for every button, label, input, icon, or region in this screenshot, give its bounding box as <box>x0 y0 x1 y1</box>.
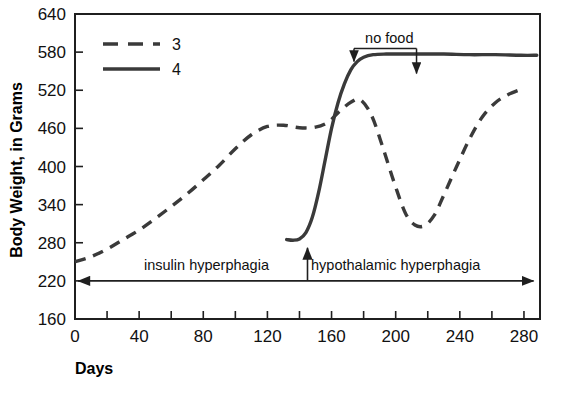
x-ticklabel-280: 280 <box>510 327 538 346</box>
y-ticklabel-460: 460 <box>38 119 66 138</box>
y-ticklabel-340: 340 <box>38 196 66 215</box>
x-ticklabel-0: 0 <box>70 327 79 346</box>
y-axis-title: Body Weight, in Grams <box>8 82 25 258</box>
y-ticklabel-640: 640 <box>38 5 66 24</box>
no-food-label: no food <box>365 30 413 46</box>
body-weight-line-chart: 160220280340400460520580640 040801201602… <box>0 0 565 398</box>
x-ticklabel-160: 160 <box>317 327 345 346</box>
legend-label-3: 3 <box>172 36 181 53</box>
x-ticklabel-40: 40 <box>130 327 149 346</box>
insulin-hyperphagia-label: insulin hyperphagia <box>144 257 270 273</box>
x-ticklabel-120: 120 <box>253 327 281 346</box>
y-ticklabel-520: 520 <box>38 81 66 100</box>
y-ticklabel-160: 160 <box>38 310 66 329</box>
y-ticklabel-280: 280 <box>38 234 66 253</box>
x-ticklabel-80: 80 <box>194 327 213 346</box>
hypothalamic-hyperphagia-label: hypothalamic hyperphagia <box>311 257 481 273</box>
x-axis-title: Days <box>75 360 113 377</box>
chart-background <box>0 0 565 398</box>
y-ticklabel-220: 220 <box>38 272 66 291</box>
chart-figure: 160220280340400460520580640 040801201602… <box>0 0 565 398</box>
legend-label-4: 4 <box>172 61 181 78</box>
x-ticklabel-240: 240 <box>446 327 474 346</box>
y-ticklabel-400: 400 <box>38 158 66 177</box>
y-ticklabel-580: 580 <box>38 43 66 62</box>
x-ticklabel-200: 200 <box>382 327 410 346</box>
